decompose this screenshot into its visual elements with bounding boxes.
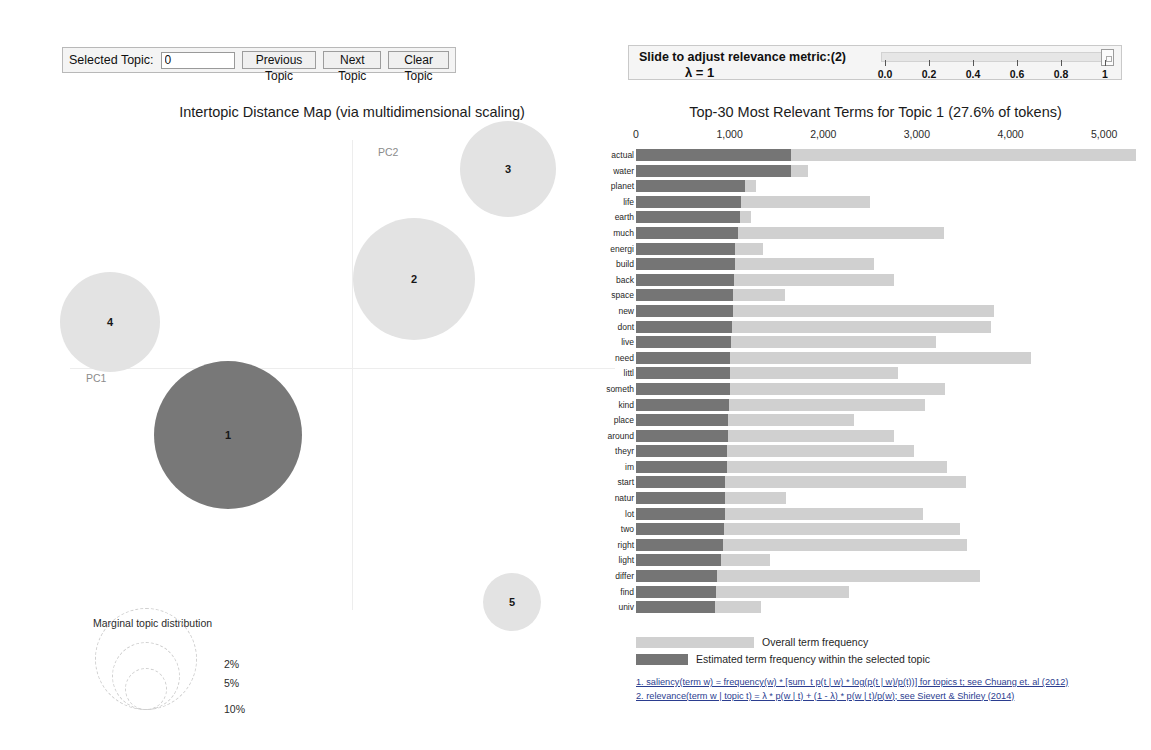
map-horizontal-axis [70, 368, 615, 369]
barchart-term-label[interactable]: water [600, 166, 634, 176]
clear-topic-button[interactable]: Clear Topic [388, 51, 449, 69]
barchart-footnote[interactable]: 2. relevance(term w | topic t) = λ * p(w… [636, 690, 1136, 704]
barchart-topic-frequency-bar [636, 321, 732, 333]
barchart-row[interactable]: energi [600, 242, 1151, 258]
barchart-term-label[interactable]: littl [600, 368, 634, 378]
barchart-topic-frequency-bar [636, 180, 745, 192]
barchart-x-axis: 01,0002,0003,0004,0005,000 [600, 128, 1151, 142]
barchart-row[interactable]: lot [600, 507, 1151, 523]
topic-circle-1[interactable]: 1 [154, 361, 302, 509]
barchart-x-tick-label: 1,000 [716, 128, 742, 140]
barchart-term-label[interactable]: life [600, 197, 634, 207]
barchart-row[interactable]: earth [600, 210, 1151, 226]
barchart-row[interactable]: two [600, 522, 1151, 538]
barchart-row[interactable]: theyr [600, 444, 1151, 460]
barchart-legend-row: Estimated term frequency within the sele… [636, 652, 1146, 669]
barchart-term-label[interactable]: differ [600, 571, 634, 581]
barchart-row[interactable]: new [600, 304, 1151, 320]
lambda-tick-label: 0.6 [1010, 68, 1025, 80]
barchart-topic-frequency-bar [636, 165, 791, 177]
barchart-row[interactable]: univ [600, 600, 1151, 616]
barchart-row[interactable]: need [600, 351, 1151, 367]
lambda-slider-handle[interactable] [1101, 49, 1114, 66]
barchart-term-label[interactable]: earth [600, 212, 634, 222]
barchart-row[interactable]: natur [600, 491, 1151, 507]
barchart-term-label[interactable]: dont [600, 322, 634, 332]
barchart-row[interactable]: planet [600, 179, 1151, 195]
barchart-bars: actualwaterplanetlifeearthmuchenergibuil… [600, 148, 1151, 616]
barchart-term-label[interactable]: place [600, 415, 634, 425]
barchart-row[interactable]: around [600, 429, 1151, 445]
topic-circle-2[interactable]: 2 [353, 218, 475, 340]
barchart-term-label[interactable]: theyr [600, 446, 634, 456]
relevance-metric-slider-panel: Slide to adjust relevance metric:(2) λ =… [628, 45, 1122, 80]
barchart-row[interactable]: life [600, 195, 1151, 211]
barchart-topic-frequency-bar [636, 211, 740, 223]
barchart-term-label[interactable]: find [600, 587, 634, 597]
barchart-row[interactable]: dont [600, 320, 1151, 336]
barchart-term-label[interactable]: right [600, 540, 634, 550]
previous-topic-button[interactable]: Previous Topic [242, 51, 317, 69]
barchart-row[interactable]: water [600, 164, 1151, 180]
barchart-topic-frequency-bar [636, 336, 731, 348]
topic-circle-5[interactable]: 5 [483, 573, 541, 631]
barchart-term-label[interactable]: light [600, 555, 634, 565]
barchart-row[interactable]: littl [600, 366, 1151, 382]
barchart-row[interactable]: space [600, 288, 1151, 304]
barchart-term-label[interactable]: live [600, 337, 634, 347]
barchart-row[interactable]: im [600, 460, 1151, 476]
lambda-tick-label: 0.2 [922, 68, 937, 80]
barchart-row[interactable]: build [600, 257, 1151, 273]
lambda-slider-track[interactable] [881, 52, 1107, 62]
barchart-term-label[interactable]: need [600, 353, 634, 363]
barchart-row[interactable]: light [600, 553, 1151, 569]
barchart-term-label[interactable]: actual [600, 150, 634, 160]
barchart-row[interactable]: kind [600, 398, 1151, 414]
barchart-row[interactable]: back [600, 273, 1151, 289]
barchart-x-tick-label: 5,000 [1091, 128, 1117, 140]
barchart-topic-frequency-bar [636, 352, 730, 364]
barchart-term-label[interactable]: around [600, 431, 634, 441]
barchart-x-tick-label: 2,000 [810, 128, 836, 140]
barchart-term-label[interactable]: univ [600, 602, 634, 612]
barchart-term-label[interactable]: energi [600, 244, 634, 254]
barchart-topic-frequency-bar [636, 227, 738, 239]
barchart-row[interactable]: start [600, 475, 1151, 491]
selected-topic-label: Selected Topic: [69, 53, 154, 67]
topic-circle-3[interactable]: 3 [460, 121, 556, 217]
barchart-row[interactable]: find [600, 585, 1151, 601]
lambda-tick-label: 0.4 [966, 68, 981, 80]
barchart-term-label[interactable]: back [600, 275, 634, 285]
barchart-topic-frequency-bar [636, 399, 729, 411]
barchart-topic-frequency-bar [636, 414, 728, 426]
barchart-legend-row: Overall term frequency [636, 635, 1146, 652]
barchart-term-label[interactable]: two [600, 524, 634, 534]
barchart-term-label[interactable]: someth [600, 384, 634, 394]
barchart-term-label[interactable]: im [600, 462, 634, 472]
barchart-topic-frequency-bar [636, 149, 791, 161]
barchart-row[interactable]: live [600, 335, 1151, 351]
barchart-row[interactable]: right [600, 538, 1151, 554]
barchart-term-label[interactable]: lot [600, 509, 634, 519]
lambda-tick-mark [1105, 60, 1106, 66]
topic-circle-4[interactable]: 4 [60, 272, 160, 372]
pc1-axis-label: PC1 [86, 372, 106, 384]
barchart-term-label[interactable]: natur [600, 493, 634, 503]
barchart-term-label[interactable]: much [600, 228, 634, 238]
barchart-footnote[interactable]: 1. saliency(term w) = frequency(w) * [su… [636, 676, 1136, 690]
barchart-row[interactable]: differ [600, 569, 1151, 585]
barchart-row[interactable]: actual [600, 148, 1151, 164]
barchart-legend: Overall term frequencyEstimated term fre… [636, 635, 1146, 669]
barchart-legend-label: Overall term frequency [762, 636, 868, 648]
barchart-term-label[interactable]: new [600, 306, 634, 316]
barchart-term-label[interactable]: start [600, 477, 634, 487]
barchart-row[interactable]: someth [600, 382, 1151, 398]
barchart-term-label[interactable]: build [600, 259, 634, 269]
next-topic-button[interactable]: Next Topic [323, 51, 381, 69]
barchart-row[interactable]: place [600, 413, 1151, 429]
barchart-term-label[interactable]: kind [600, 400, 634, 410]
barchart-row[interactable]: much [600, 226, 1151, 242]
barchart-term-label[interactable]: space [600, 290, 634, 300]
selected-topic-input[interactable] [161, 52, 235, 69]
barchart-term-label[interactable]: planet [600, 181, 634, 191]
